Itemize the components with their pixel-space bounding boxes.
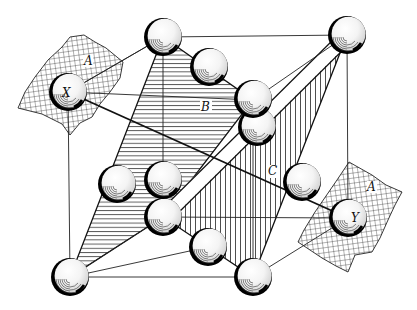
atom-edge-upper-a [234, 80, 272, 118]
atom-bottom-face-center [189, 228, 227, 266]
atom-top-back-right [328, 16, 366, 54]
atom-top-face-center [190, 48, 228, 86]
atom-y [329, 199, 367, 237]
atom-right-face-center [283, 163, 321, 201]
atom-bottom-front-right [234, 258, 272, 296]
atom-left-face-center [98, 165, 136, 203]
atom-center-lower [144, 198, 182, 236]
label-plane-a-left: A [83, 54, 93, 68]
label-plane-a-right: A [366, 180, 376, 194]
label-atom-x: X [61, 86, 71, 100]
label-atom-y: Y [351, 211, 360, 225]
label-plane-b: B [200, 100, 210, 114]
fcc-unit-cell-diagram: A X B C A Y [0, 0, 417, 310]
atom-bottom-front-left [51, 258, 89, 296]
atom-top-back-left [144, 18, 182, 56]
atom-center-upper [144, 161, 182, 199]
label-plane-c: C [268, 164, 277, 178]
